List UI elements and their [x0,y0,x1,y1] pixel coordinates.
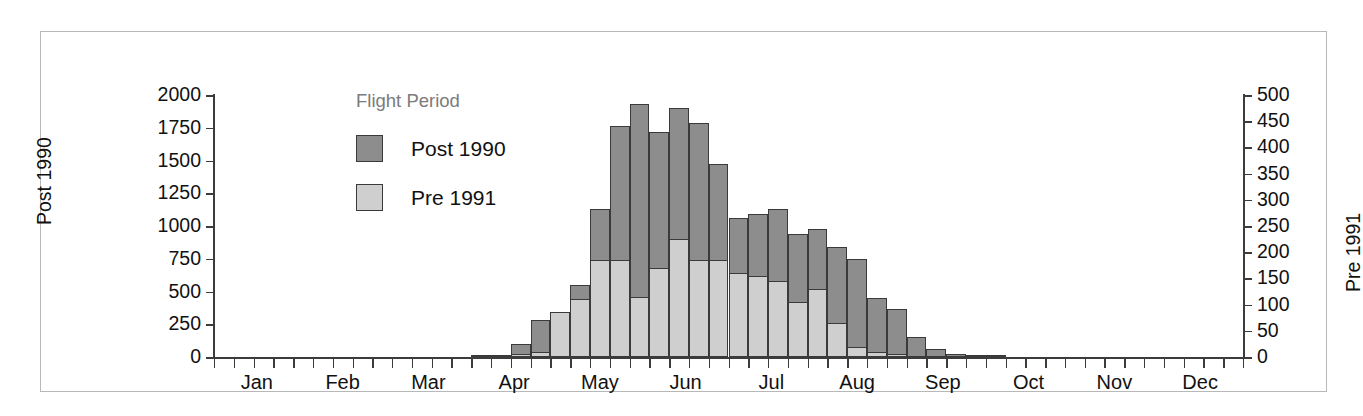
bar-post-1990 [491,355,511,357]
x-axis-tick [214,359,215,368]
y-axis-left-tick-label: 2000 [158,85,201,105]
bar-post-1990 [966,355,986,357]
bar-pre-1991 [630,297,650,357]
bar-pre-1991 [827,323,847,357]
bar-post-1990 [887,309,907,357]
bar-pre-1991 [748,276,768,357]
bar-post-1990 [847,259,867,357]
x-axis-tick [471,359,472,368]
x-axis-tick [313,359,314,368]
x-axis-month-label: May [560,372,640,392]
x-axis-tick [273,359,274,368]
chart-frame: Post 1990 Pre 1991 025050075010001250150… [40,31,1327,392]
legend: Flight Period Post 1990 Pre 1991 [356,92,506,233]
legend-item-post-1990: Post 1990 [356,135,506,162]
y-axis-right-tick [1245,357,1252,359]
x-axis-tick [649,359,650,368]
legend-swatch-post-1990 [356,135,383,162]
x-axis-tick [234,359,235,368]
y-axis-left-tick-label: 1250 [158,183,201,203]
x-axis-tick [827,359,828,368]
y-axis-right-tick-label: 0 [1257,347,1268,367]
x-axis-tick [1065,359,1066,368]
y-axis-right-tick-label: 100 [1257,295,1290,315]
x-axis-tick [867,359,868,368]
bar-post-1990 [867,298,887,357]
bar-pre-1991 [887,354,907,357]
bar-post-1990 [946,354,966,357]
y-axis-left-tick [206,259,213,261]
y-axis-left-tick-label: 1750 [158,118,201,138]
x-axis-tick [1104,359,1105,368]
x-axis-tick [333,359,334,368]
x-axis-tick [966,359,967,368]
x-axis-month-label: Apr [474,372,554,392]
x-axis-tick [689,359,690,368]
bar-pre-1991 [729,273,749,357]
x-axis-tick [1184,359,1185,368]
x-axis-tick [372,359,373,368]
y-axis-right-tick-label: 200 [1257,242,1290,262]
bar-post-1990 [926,349,946,357]
y-axis-right-tick [1245,331,1252,333]
x-axis-month-label: Feb [303,372,383,392]
x-axis-tick [1045,359,1046,368]
y-axis-right-tick-label: 250 [1257,216,1290,236]
y-axis-left-tick-label: 750 [168,249,201,269]
bar-pre-1991 [531,352,551,357]
x-axis-tick [1144,359,1145,368]
bar-pre-1991 [550,312,570,357]
x-axis-tick [511,359,512,368]
x-axis-tick [590,359,591,368]
y-axis-right-tick [1245,200,1252,202]
y-axis-right-title: Pre 1991 [1344,213,1363,292]
x-axis-tick [432,359,433,368]
y-axis-left-title: Post 1990 [35,137,55,225]
y-axis-left-tick [206,292,213,294]
y-axis-left-tick [206,226,213,228]
x-axis-tick [1085,359,1086,368]
bar-pre-1991 [511,354,531,357]
x-axis-tick [1223,359,1224,368]
x-axis-tick [630,359,631,368]
x-axis-tick [1025,359,1026,368]
x-axis-tick [392,359,393,368]
bar-pre-1991 [570,299,590,357]
y-axis-left-tick [206,324,213,326]
x-axis-tick [768,359,769,368]
x-axis-tick [669,359,670,368]
x-axis-tick [491,359,492,368]
x-axis-tick [353,359,354,368]
x-axis-tick [1124,359,1125,368]
x-axis-tick [412,359,413,368]
y-axis-right-tick [1245,278,1252,280]
y-axis-right-tick-label: 300 [1257,190,1290,210]
x-axis-tick [986,359,987,368]
y-axis-left-tick [206,128,213,130]
y-axis-right-tick [1245,174,1252,176]
x-axis-tick [610,359,611,368]
bar-pre-1991 [768,281,788,357]
bar-pre-1991 [649,268,669,357]
y-axis-right-tick [1245,305,1252,307]
y-axis-left-tick [206,357,213,359]
x-axis-month-label: Oct [989,372,1069,392]
y-axis-left-tick [206,95,213,97]
x-axis-month-label: Nov [1074,372,1154,392]
y-axis-right-tick [1245,252,1252,254]
bar-pre-1991 [689,260,709,357]
x-axis-tick [926,359,927,368]
y-axis-right-tick [1245,147,1252,149]
bar-post-1990 [986,355,1006,357]
x-axis-tick [907,359,908,368]
y-axis-left-tick [206,161,213,163]
legend-label-pre-1991: Pre 1991 [411,187,496,208]
x-axis-tick [254,359,255,368]
bar-pre-1991 [788,302,808,357]
x-axis-tick [788,359,789,368]
bar-pre-1991 [709,260,729,357]
y-axis-left-tick-label: 1500 [158,151,201,171]
bar-pre-1991 [808,289,828,357]
x-axis-tick [570,359,571,368]
y-axis-right-tick [1245,95,1252,97]
